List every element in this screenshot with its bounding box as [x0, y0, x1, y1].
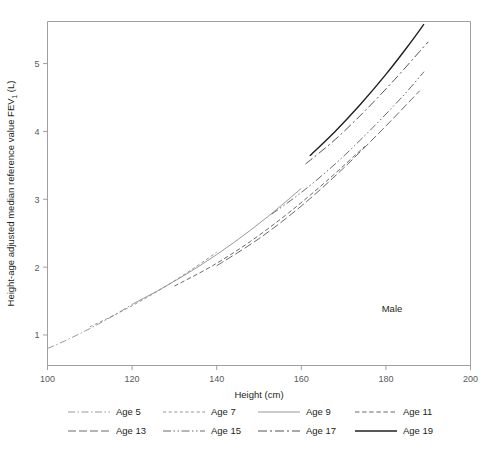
x-tick-label-180: 180	[378, 374, 393, 384]
legend-label-age-19: Age 19	[403, 425, 433, 436]
legend-item-age-19[interactable]: Age 19	[355, 425, 433, 436]
series-line-age-9	[132, 188, 301, 304]
x-tick-label-200: 200	[463, 374, 478, 384]
legend-label-age-5: Age 5	[116, 406, 141, 417]
legend-label-age-11: Age 11	[403, 406, 432, 417]
legend-label-age-15: Age 15	[211, 425, 241, 436]
y-tick-label-2: 2	[34, 263, 39, 273]
legend-label-age-13: Age 13	[116, 425, 146, 436]
chart-canvas: 10012014016018020012345Height (cm)Height…	[0, 0, 490, 454]
series-group	[48, 24, 429, 348]
x-tick-label-120: 120	[125, 374, 140, 384]
legend-item-age-17[interactable]: Age 17	[258, 425, 336, 436]
legend-item-age-11[interactable]: Age 11	[355, 406, 432, 417]
x-axis-title: Height (cm)	[234, 389, 283, 400]
y-axis-title-unit: (L)	[5, 81, 16, 95]
legend-label-age-7: Age 7	[211, 406, 236, 417]
x-tick-label-140: 140	[209, 374, 224, 384]
series-line-age-15	[272, 72, 424, 214]
x-tick-label-100: 100	[40, 374, 55, 384]
legend-item-age-15[interactable]: Age 15	[163, 425, 241, 436]
legend-item-age-7[interactable]: Age 7	[163, 406, 236, 417]
legend-label-age-17: Age 17	[306, 425, 336, 436]
y-tick-label-1: 1	[34, 330, 39, 340]
x-tick-label-160: 160	[294, 374, 309, 384]
legend-item-age-5[interactable]: Age 5	[68, 406, 141, 417]
male-annotation: Male	[382, 303, 403, 314]
legend-item-age-9[interactable]: Age 9	[258, 406, 331, 417]
plot-frame	[48, 22, 471, 366]
series-line-age-19	[310, 24, 424, 156]
legend-label-age-9: Age 9	[306, 406, 331, 417]
y-axis-title: Height-age adjusted median reference val…	[5, 81, 18, 307]
y-tick-label-4: 4	[34, 127, 39, 137]
fev1-height-chart: 10012014016018020012345Height (cm)Height…	[0, 0, 490, 454]
series-line-age-11	[174, 146, 364, 286]
series-line-age-7	[90, 252, 217, 327]
y-tick-label-3: 3	[34, 195, 39, 205]
y-axis-title-main: Height-age adjusted median reference val…	[5, 98, 16, 307]
y-tick-label-5: 5	[34, 59, 39, 69]
legend-item-age-13[interactable]: Age 13	[68, 425, 146, 436]
